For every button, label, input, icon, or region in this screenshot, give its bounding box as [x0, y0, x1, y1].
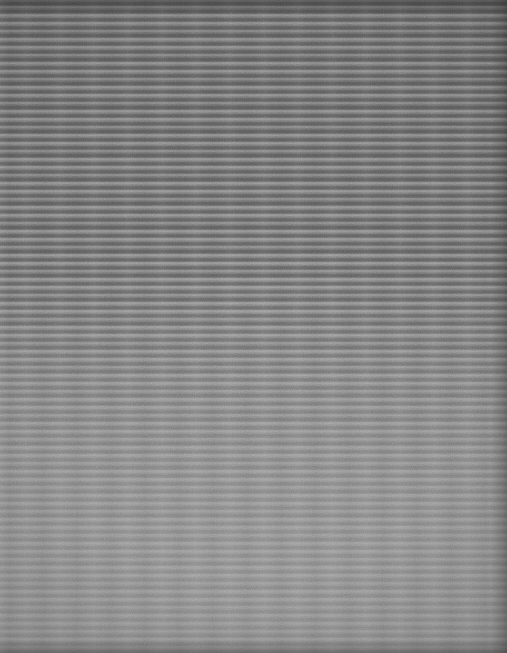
page-vignette [0, 0, 507, 653]
scanned-document-page: Heavily blurred / out-of-focus scan of a… [0, 0, 507, 653]
